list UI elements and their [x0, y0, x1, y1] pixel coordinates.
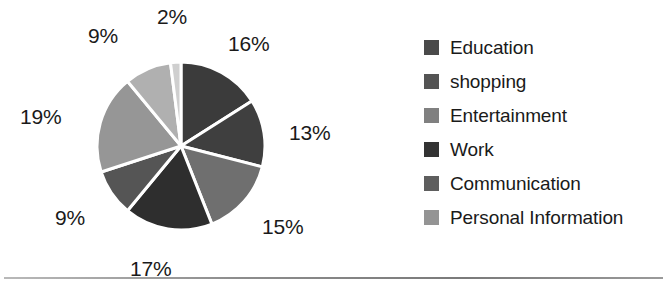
legend-row: Education: [424, 30, 664, 64]
legend-swatch-icon: [424, 40, 439, 55]
pie-svg: [0, 0, 400, 289]
legend-row: Work: [424, 132, 664, 166]
legend-label: Entertainment: [450, 106, 567, 125]
legend-row: Entertainment: [424, 98, 664, 132]
slice-value-label-17: 17%: [130, 258, 171, 279]
slice-value-label-15: 15%: [262, 216, 303, 237]
slice-value-label-19: 19%: [20, 106, 61, 127]
slice-value-label-9-lower-left: 9%: [55, 207, 85, 228]
legend-swatch-icon: [424, 74, 439, 89]
legend-row: Communication: [424, 166, 664, 200]
legend-swatch-icon: [424, 176, 439, 191]
legend-label: Personal Information: [450, 208, 623, 227]
legend-row: shopping: [424, 64, 664, 98]
legend-label: Work: [450, 140, 494, 159]
pie-plot-area: 16% 13% 15% 17% 9% 19% 9% 2%: [0, 0, 400, 289]
slice-value-label-16: 16%: [228, 33, 269, 54]
pie-chart-figure: 16% 13% 15% 17% 9% 19% 9% 2% Educationsh…: [0, 0, 667, 289]
legend-label: shopping: [450, 72, 526, 91]
slice-value-label-9-upper-left: 9%: [88, 25, 118, 46]
legend-label: Education: [450, 38, 534, 57]
chart-legend: EducationshoppingEntertainmentWorkCommun…: [424, 30, 664, 234]
pie-slice-group: [97, 62, 265, 230]
horizontal-rule: [4, 277, 663, 279]
legend-swatch-icon: [424, 142, 439, 157]
legend-label: Communication: [450, 174, 581, 193]
slice-value-label-2: 2%: [157, 6, 187, 27]
slice-value-label-13: 13%: [289, 122, 330, 143]
legend-swatch-icon: [424, 108, 439, 123]
legend-swatch-icon: [424, 210, 439, 225]
legend-row: Personal Information: [424, 200, 664, 234]
